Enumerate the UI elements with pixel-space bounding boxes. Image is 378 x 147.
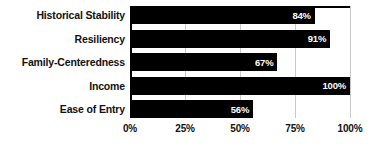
bar-historical-stability[interactable]: 84% — [130, 6, 315, 24]
x-tick-label-50: 50% — [230, 123, 249, 134]
bar-value-label: 67% — [255, 57, 277, 68]
category-label-family-centeredness: Family-Centeredness — [0, 53, 125, 71]
category-label-historical-stability: Historical Stability — [0, 6, 125, 24]
bar-row: 100% — [130, 77, 350, 95]
bar-row: 56% — [130, 100, 350, 118]
x-axis: 0% 25% 50% 75% 100% — [130, 120, 350, 140]
bar-income[interactable]: 100% — [130, 77, 350, 95]
plot-area: 84% 91% 67% 100% 56% — [130, 6, 350, 118]
x-tick-label-0: 0% — [123, 123, 137, 134]
bar-row: 91% — [130, 30, 350, 48]
x-tick-label-75: 75% — [285, 123, 304, 134]
category-label-income: Income — [0, 77, 125, 95]
bar-value-label: 84% — [292, 10, 314, 21]
bar-value-label: 91% — [308, 33, 330, 44]
category-label-resiliency: Resiliency — [0, 30, 125, 48]
bar-chart: Historical Stability Resiliency Family-C… — [0, 0, 378, 147]
x-tick-label-100: 100% — [338, 123, 363, 134]
bar-row: 67% — [130, 53, 350, 71]
bar-series: 84% 91% 67% 100% 56% — [130, 6, 350, 118]
category-axis-labels: Historical Stability Resiliency Family-C… — [0, 6, 125, 118]
bar-resiliency[interactable]: 91% — [130, 30, 330, 48]
bar-ease-of-entry[interactable]: 56% — [130, 100, 253, 118]
x-tick-label-25: 25% — [175, 123, 194, 134]
bar-value-label: 100% — [323, 80, 351, 91]
bar-family-centeredness[interactable]: 67% — [130, 53, 277, 71]
category-label-ease-of-entry: Ease of Entry — [0, 100, 125, 118]
gridline-100 — [350, 6, 351, 118]
bar-row: 84% — [130, 6, 350, 24]
bar-value-label: 56% — [231, 104, 253, 115]
